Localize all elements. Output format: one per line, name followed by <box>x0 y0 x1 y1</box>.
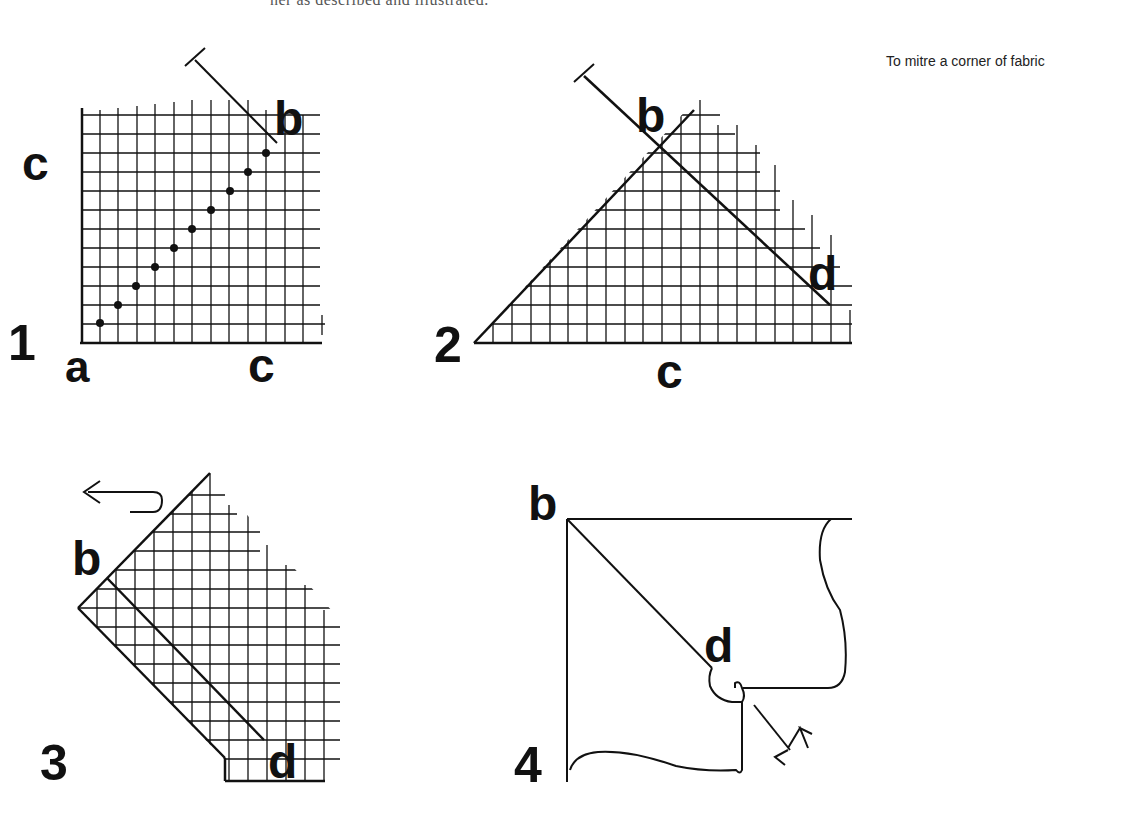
panel-2-label-b: b <box>636 89 665 142</box>
panel-3-label-b: b <box>72 532 101 585</box>
mitre-diagram: 1 a c c b 2 b d c <box>0 0 1129 818</box>
panel-1-label-c-bottom: c <box>248 339 275 392</box>
panel-4-number: 4 <box>514 737 542 793</box>
panel-2-number: 2 <box>434 317 462 373</box>
panel-1-label-a: a <box>65 342 90 391</box>
panel-4-label-d: d <box>704 619 733 672</box>
panel-3 <box>70 470 340 790</box>
panel-3-number: 3 <box>40 735 68 791</box>
panel-1-number: 1 <box>8 315 36 371</box>
panel-3-label-d: d <box>268 735 297 788</box>
panel-4-label-b: b <box>528 477 557 530</box>
panel-2-label-d: d <box>808 247 837 300</box>
panel-2-label-c: c <box>656 345 683 398</box>
panel-1-label-b: b <box>274 92 303 145</box>
panel-1-label-c-left: c <box>22 137 49 190</box>
